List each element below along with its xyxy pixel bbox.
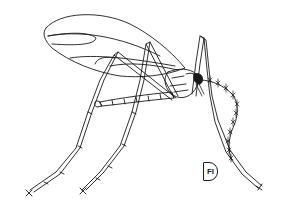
middle-leg — [80, 42, 178, 194]
mosquito-illustration — [0, 0, 283, 206]
abdomen — [95, 92, 174, 107]
figure-canvas: FI — [0, 0, 283, 206]
figure-label-text: FI — [207, 167, 214, 176]
wing — [44, 15, 185, 77]
antenna — [200, 76, 239, 162]
